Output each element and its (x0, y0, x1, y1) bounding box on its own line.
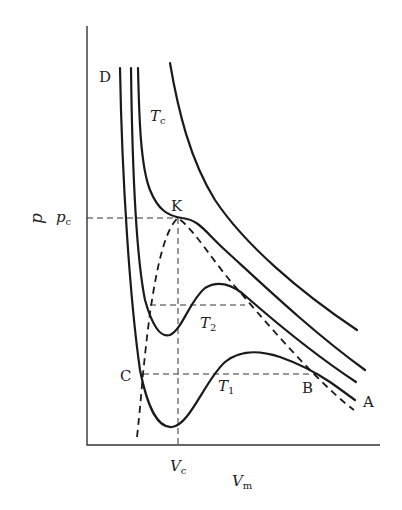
isotherm-tc (138, 68, 365, 370)
point-a-label: A (362, 393, 374, 411)
tc-label: Tc (150, 107, 166, 126)
vc-label: Vc (170, 457, 187, 476)
pc-label: pc (56, 208, 72, 227)
x-axis-label: Vm (232, 472, 253, 491)
point-d-label: D (99, 68, 111, 86)
pv-isotherm-diagram: p pc Vc Vm D K C B A Tc T2 T1 (0, 0, 402, 510)
point-c-label: C (120, 367, 131, 385)
t2-label: T2 (200, 314, 216, 333)
isotherm-high (170, 63, 357, 330)
t1-label: T1 (218, 377, 234, 396)
point-b-label: B (302, 379, 313, 397)
coexistence-curve (137, 218, 354, 437)
point-k-label: K (171, 197, 183, 215)
y-axis-label: p (26, 213, 46, 224)
